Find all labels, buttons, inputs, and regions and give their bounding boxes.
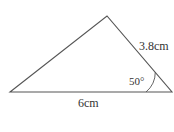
right-side-length-label: 3.8cm [139,39,169,53]
triangle-diagram: 3.8cm 50° 6cm [0,0,174,132]
base-length-label: 6cm [78,96,99,110]
triangle-shape [10,16,172,92]
angle-arc [146,72,155,92]
angle-label: 50° [129,75,144,87]
